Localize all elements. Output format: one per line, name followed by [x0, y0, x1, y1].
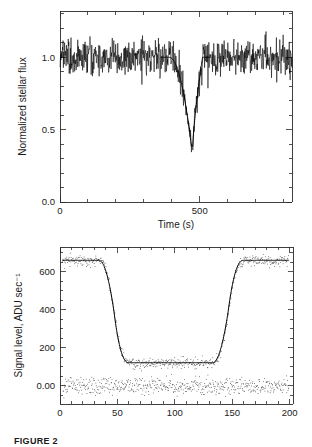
- chart-panel-top: 05000.00.51.0Time (s)Normalized stellar …: [0, 0, 312, 232]
- figure-container: 05000.00.51.0Time (s)Normalized stellar …: [0, 0, 312, 447]
- top-ytick-label: 0.5: [42, 124, 55, 135]
- bottom-ytick-label: 200: [39, 342, 55, 353]
- top-ytick-label: 1.0: [42, 52, 55, 63]
- chart-panel-bottom: 0501001502000.00200400600Seconds after 1…: [0, 232, 312, 417]
- bottom-ytick-label: 400: [39, 304, 55, 315]
- bottom-xtick-label: 0: [57, 407, 62, 417]
- top-panel-svg: 05000.00.51.0Time (s)Normalized stellar …: [0, 0, 312, 232]
- bottom-xtick-label: 200: [282, 407, 298, 417]
- top-ytick-label: 0.0: [42, 196, 55, 207]
- bottom-model-fit: [62, 260, 288, 362]
- top-yaxis-title: Normalized stellar flux: [17, 57, 28, 155]
- top-model-fit: [161, 57, 211, 146]
- bottom-xtick-label: 150: [224, 407, 240, 417]
- figure-caption: FIGURE 2: [14, 436, 58, 447]
- top-xtick-label: 500: [192, 205, 208, 216]
- bottom-panel-svg: 0501001502000.00200400600Seconds after 1…: [0, 232, 312, 417]
- bottom-yaxis-title: Signal level, ADU sec⁻¹: [13, 273, 24, 378]
- top-xaxis-title: Time (s): [158, 219, 194, 230]
- bottom-xtick-label: 100: [167, 407, 183, 417]
- top-flux-lightcurve: [60, 32, 292, 153]
- bottom-ytick-label: 600: [39, 266, 55, 277]
- bottom-residuals-scatter: [62, 374, 289, 398]
- bottom-signal-scatter: [62, 253, 289, 372]
- bottom-xtick-label: 50: [112, 407, 123, 417]
- bottom-ytick-label: 0.00: [37, 380, 56, 391]
- top-xtick-label: 0: [57, 205, 62, 216]
